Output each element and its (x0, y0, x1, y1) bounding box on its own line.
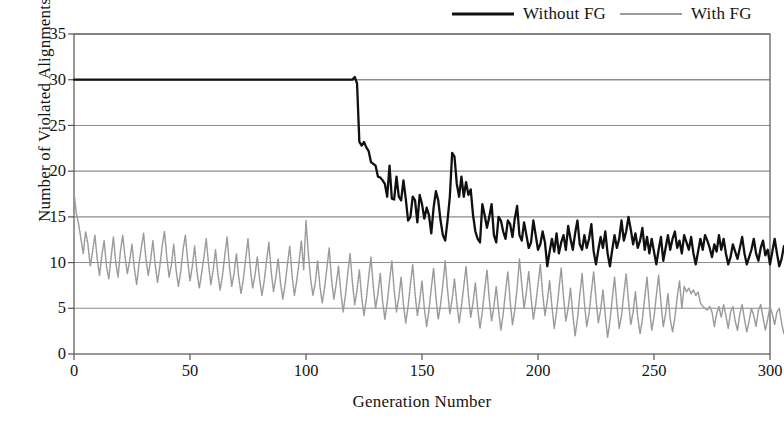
series-line-without-fg (74, 77, 784, 268)
chart-figure: Without FG With FG 35 30 25 20 15 10 5 0… (0, 0, 784, 426)
plot-area (0, 0, 784, 426)
grid-lines (74, 34, 770, 308)
plot-frame (74, 34, 770, 354)
